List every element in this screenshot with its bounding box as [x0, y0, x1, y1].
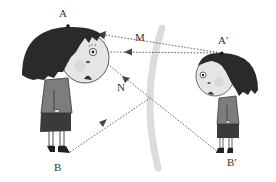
label-b: B: [54, 162, 61, 173]
mirror: [150, 28, 162, 168]
ray-a-prime-to-eye: [104, 52, 222, 53]
girl-object: [22, 24, 109, 153]
arrow-icon: [99, 119, 107, 127]
label-b-prime: B′: [227, 157, 237, 168]
girl-image: [196, 52, 258, 154]
ray-b-to-n: [70, 98, 150, 152]
mirror-reflection-diagram: A B M N A′ B′: [0, 0, 276, 182]
arrow-icon: [124, 49, 132, 56]
label-n: N: [117, 82, 125, 93]
label-m: M: [135, 32, 145, 43]
label-a: A: [59, 8, 67, 19]
diagram-canvas: [0, 0, 276, 182]
label-a-prime: A′: [218, 35, 228, 46]
